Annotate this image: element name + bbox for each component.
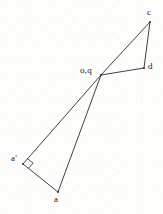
vertex-label-a-prime: a'	[11, 154, 17, 163]
edge-oq-to-a-prime	[23, 75, 101, 164]
figure-container: c d o,q a' a	[0, 0, 163, 214]
vertex-dot-a	[57, 191, 59, 193]
edge-d-to-oq	[101, 68, 144, 75]
vertex-dot-d	[143, 67, 145, 69]
vertex-label-o-q: o,q	[80, 66, 92, 75]
marker-group	[28, 159, 33, 169]
diagram-canvas	[0, 0, 163, 214]
vertex-label-a: a	[54, 195, 58, 204]
vertex-label-d: d	[148, 62, 153, 71]
edge-a-to-oq	[58, 75, 101, 192]
vertex-dot-group	[22, 21, 151, 193]
vertex-dot-oq	[100, 74, 102, 76]
vertex-label-c: c	[147, 8, 151, 17]
edge-group	[23, 22, 150, 192]
vertex-dot-a-prime	[22, 163, 24, 165]
edge-oq-to-c	[101, 22, 150, 75]
vertex-dot-c	[149, 21, 151, 23]
edge-a-prime-to-a	[23, 164, 58, 192]
right-angle-marker-icon	[28, 159, 33, 169]
